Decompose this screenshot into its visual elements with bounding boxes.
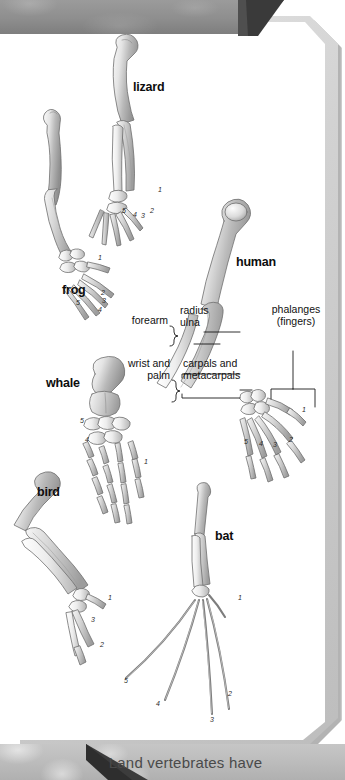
species-label-frog: frog (62, 283, 86, 297)
species-label-bird: bird (37, 485, 60, 499)
annotation-ulna: ulna (180, 317, 200, 329)
top-band-wedge-icon (238, 0, 284, 36)
digit-number-lizard-2: 2 (150, 207, 154, 214)
digit-number-lizard-1: 1 (158, 186, 162, 193)
annotation-phalanges: phalanges (258, 304, 334, 316)
digit-number-whale-5: 5 (80, 417, 84, 424)
digit-number-human-2: 2 (289, 436, 293, 443)
digit-number-frog-5: 5 (76, 299, 80, 306)
annotation-wrist-and: wrist and (100, 358, 170, 370)
digit-number-whale-4: 4 (85, 436, 89, 443)
digit-number-human-3: 3 (273, 441, 277, 448)
digit-number-bird-1: 1 (108, 594, 112, 601)
digit-number-bat-4: 4 (156, 700, 160, 707)
digit-number-bat-1: 1 (238, 594, 242, 601)
annotation-carpals: carpals and (183, 358, 237, 370)
digit-number-human-1: 1 (302, 406, 306, 413)
figure-caption: Land vertebrates have (0, 744, 345, 780)
digit-number-bat-2: 2 (228, 690, 232, 697)
specimen-bat-skeleton (126, 483, 229, 714)
annotation-forearm: forearm (98, 315, 168, 327)
annotation-palm: palm (100, 370, 170, 382)
species-label-lizard: lizard (133, 80, 164, 94)
digit-number-frog-4: 4 (98, 306, 102, 313)
digit-number-lizard-3: 3 (141, 212, 145, 219)
annotation-phalanges-fingers: (fingers) (258, 316, 334, 328)
digit-number-human-4: 4 (259, 440, 263, 447)
specimen-whale-skeleton (83, 356, 144, 524)
digit-number-bird-2: 2 (100, 641, 104, 648)
digit-number-bat-3: 3 (210, 716, 214, 723)
digit-number-lizard-4: 4 (133, 211, 137, 218)
digit-number-bat-5: 5 (124, 677, 128, 684)
specimen-human-skeleton (157, 199, 306, 482)
digit-number-frog-1: 1 (98, 254, 102, 261)
digit-number-lizard-5: 5 (122, 207, 126, 214)
digit-number-frog-2: 2 (101, 289, 105, 296)
digit-number-frog-3: 3 (102, 297, 106, 304)
annotation-metacarpals: metacarpals (183, 370, 240, 382)
annotation-radius: radius (180, 305, 209, 317)
digit-number-whale-1: 1 (144, 458, 148, 465)
species-label-bat: bat (215, 529, 233, 543)
species-label-whale: whale (46, 376, 80, 390)
specimen-bird-skeleton (14, 472, 106, 665)
species-label-human: human (236, 255, 276, 269)
digit-number-human-5: 5 (244, 438, 248, 445)
digit-number-bird-3: 3 (91, 616, 95, 623)
